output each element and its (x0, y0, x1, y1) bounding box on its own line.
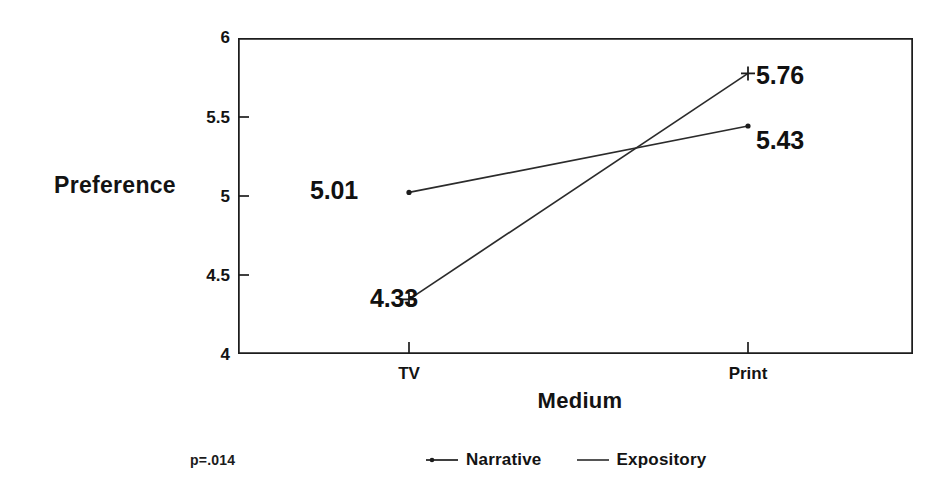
marker-expository-tv (406, 190, 411, 195)
value-label-narrative-print: 5.76 (756, 61, 804, 90)
y-tick-label-5: 5 (221, 187, 230, 207)
series-line-narrative (409, 73, 748, 299)
legend-marker-narrative-icon (425, 454, 459, 466)
legend-label-narrative: Narrative (466, 450, 542, 470)
x-tick-marks (409, 342, 748, 354)
y-tick-label-5-5: 5.5 (206, 108, 230, 128)
x-tick-label-tv: TV (398, 364, 420, 384)
value-label-expository-print: 5.43 (756, 126, 804, 155)
legend-marker-expository-icon (576, 454, 610, 466)
p-value-note: p=.014 (190, 452, 235, 468)
marker-expository-print (745, 123, 750, 128)
legend-item-narrative: Narrative (425, 450, 542, 470)
chart-legend: Narrative Expository (425, 450, 706, 470)
series-line-expository (409, 126, 748, 192)
value-label-narrative-tv: 4.33 (370, 284, 418, 313)
legend-item-expository: Expository (576, 450, 707, 470)
value-label-expository-tv: 5.01 (310, 176, 358, 205)
x-axis-title: Medium (480, 388, 680, 414)
y-axis-tick-labels: 6 5.5 5 4.5 4 (178, 0, 230, 501)
marker-narrative-print (741, 66, 755, 80)
y-tick-label-4: 4 (221, 345, 230, 365)
chart-figure: Preference 6 5.5 5 4.5 4 TV Print Medium (0, 0, 950, 501)
y-tick-label-4-5: 4.5 (206, 266, 230, 286)
y-tick-label-6: 6 (221, 28, 230, 48)
x-tick-label-print: Print (729, 364, 768, 384)
legend-label-expository: Expository (617, 450, 707, 470)
